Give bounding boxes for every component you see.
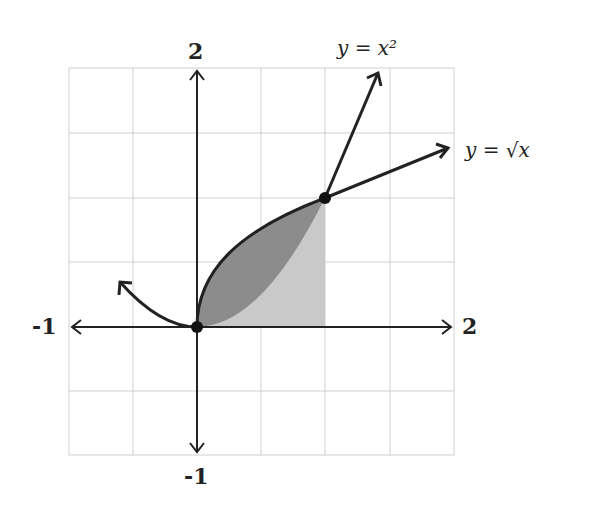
x-axis-left-label: -1 bbox=[32, 313, 56, 339]
graph-canvas bbox=[0, 0, 589, 515]
y-axis-top-label: 2 bbox=[188, 38, 203, 64]
x-axis-right-label: 2 bbox=[462, 313, 477, 339]
point-one-one bbox=[319, 192, 331, 204]
parabola-label: y = x² bbox=[337, 36, 397, 60]
y-axis-bottom-label: -1 bbox=[184, 463, 208, 489]
sqrt-label: y = √x bbox=[465, 138, 530, 162]
point-origin bbox=[191, 321, 203, 333]
curve-parabola bbox=[120, 282, 197, 327]
